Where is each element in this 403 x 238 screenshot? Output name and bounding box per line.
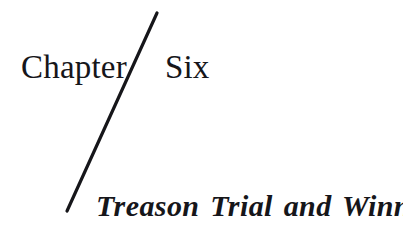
chapter-subtitle: Treason Trial and Winnie — [96, 190, 396, 224]
chapter-opening-page: ChapterSix Treason Trial and Winnie — [0, 0, 403, 238]
chapter-word-label: Chapter — [21, 50, 127, 85]
diagonal-rule-stroke — [67, 13, 157, 211]
chapter-heading: ChapterSix — [21, 50, 221, 90]
chapter-number-label: Six — [165, 50, 210, 85]
